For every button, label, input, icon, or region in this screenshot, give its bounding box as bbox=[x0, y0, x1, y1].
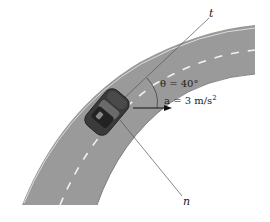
road-surface bbox=[22, 25, 255, 205]
diagram-canvas: t n θ = 40° a = 3 m/s2 bbox=[0, 0, 270, 222]
normal-axis-line bbox=[120, 120, 182, 196]
acceleration-text: a = 3 m/s bbox=[164, 95, 212, 106]
normal-label: n bbox=[183, 195, 190, 208]
angle-label: θ = 40° bbox=[160, 78, 198, 89]
tangent-label: t bbox=[209, 7, 214, 20]
acceleration-exponent: 2 bbox=[212, 94, 216, 102]
acceleration-label: a = 3 m/s2 bbox=[164, 94, 217, 106]
